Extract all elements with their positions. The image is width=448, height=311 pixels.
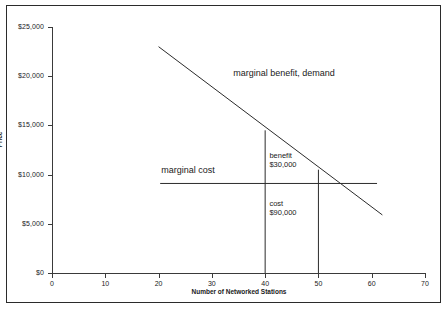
demand-label: marginal benefit, demand <box>233 68 335 78</box>
cost-label-line2: $90,000 <box>269 208 296 218</box>
chart-series-layer <box>0 0 448 311</box>
chart-figure: $0$5,000$10,000$15,000$20,000$25,000 010… <box>0 0 448 311</box>
benefit-label-line2: $30,000 <box>269 160 296 170</box>
marginal-cost-label: marginal cost <box>161 165 215 175</box>
